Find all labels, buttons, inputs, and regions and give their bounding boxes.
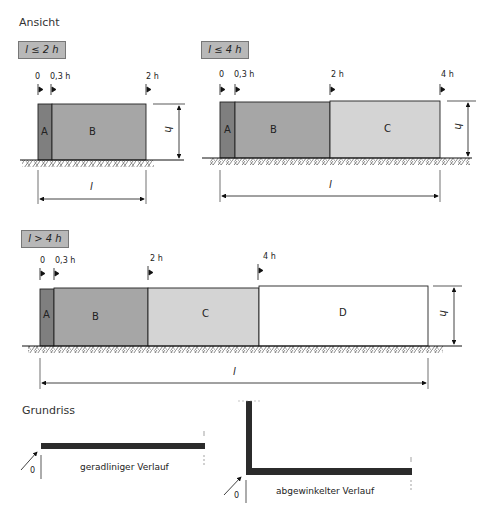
segment-label-c: C: [202, 308, 209, 319]
length-label: l: [233, 366, 236, 377]
segment-label-a: A: [43, 309, 50, 320]
plan-caption-straight: geradliniger Verlauf: [80, 462, 169, 472]
plan-caption-angled: abgewinkelter Verlauf: [276, 486, 374, 496]
badge-case-2: l ≤ 4 h: [201, 41, 249, 59]
diagram-2: [202, 84, 476, 202]
section-heading-ansicht: Ansicht: [19, 16, 60, 29]
tick-label-0: 0: [219, 70, 224, 79]
segment-label-c: C: [384, 123, 391, 134]
segment-label-a: A: [41, 126, 48, 137]
tick-label-0-3h: 0,3 h: [50, 72, 70, 81]
tick-label-2h: 2 h: [150, 254, 163, 263]
diagram-3: [22, 264, 462, 389]
length-label: l: [90, 181, 93, 192]
tick-label-2h: 2 h: [331, 70, 344, 79]
segment-label-b: B: [89, 126, 96, 137]
length-label: l: [329, 179, 332, 190]
badge-case-3: l > 4 h: [21, 230, 69, 248]
tick-label-0: 0: [35, 72, 40, 81]
tick-label-4h: 4 h: [263, 252, 276, 261]
tick-label-0-3h: 0,3 h: [55, 256, 75, 265]
origin-label: 0: [30, 466, 35, 475]
origin-label: 0: [234, 491, 239, 500]
segment-label-a: A: [224, 124, 231, 135]
tick-label-0: 0: [40, 256, 45, 265]
height-label: h: [438, 310, 449, 316]
segment-label-b: B: [270, 124, 277, 135]
tick-label-4h: 4 h: [441, 70, 454, 79]
diagram-1: [20, 84, 185, 204]
section-heading-grundriss: Grundriss: [22, 404, 75, 417]
tick-label-0-3h: 0,3 h: [234, 70, 254, 79]
badge-case-1: l ≤ 2 h: [18, 41, 66, 59]
segment-label-d: D: [339, 307, 347, 318]
height-label: h: [453, 123, 464, 129]
tick-label-2h: 2 h: [146, 72, 159, 81]
segment-label-b: B: [92, 311, 99, 322]
height-label: h: [163, 126, 174, 132]
